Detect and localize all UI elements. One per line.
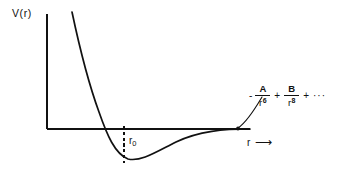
r0-label: r0 bbox=[129, 136, 137, 147]
equation-term-2-denominator: r8 bbox=[286, 96, 298, 108]
equation-operator-1: + bbox=[273, 90, 281, 101]
equation-ellipsis: ··· bbox=[313, 90, 326, 101]
equation-term-2-fraction: B r8 bbox=[284, 84, 299, 107]
equation-term-1-denominator-exponent: 6 bbox=[263, 97, 267, 104]
potential-curve bbox=[72, 12, 250, 160]
r0-label-subscript: 0 bbox=[132, 139, 136, 148]
x-axis-label-text: r bbox=[247, 137, 250, 148]
equation-term-1-numerator: A bbox=[257, 84, 268, 95]
y-axis-label: V(r) bbox=[12, 8, 32, 19]
equation-term-2-denominator-exponent: 8 bbox=[292, 97, 296, 104]
potential-energy-figure: V(r) r0 r⟶ - A r6 + B r8 + ··· bbox=[0, 0, 348, 177]
equation-leading-minus: - bbox=[249, 90, 252, 101]
equation-operator-2: + bbox=[302, 90, 310, 101]
equation-term-2-numerator: B bbox=[286, 84, 297, 95]
equation-term-1-denominator: r6 bbox=[257, 96, 269, 108]
potential-expansion-equation: - A r6 + B r8 + ··· bbox=[249, 84, 326, 107]
equation-term-1-fraction: A r6 bbox=[255, 84, 270, 107]
x-axis-label: r⟶ bbox=[247, 136, 272, 148]
x-axis-arrow-icon: ⟶ bbox=[255, 136, 272, 148]
leader-line-anchor-dot bbox=[236, 127, 240, 131]
